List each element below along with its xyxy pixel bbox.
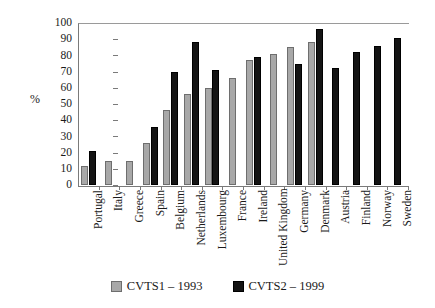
y-axis-tick-label: 10 <box>61 163 73 175</box>
bar-group <box>78 23 99 185</box>
y-axis-tick-label: 90 <box>61 33 73 45</box>
bar-group <box>305 23 326 185</box>
x-axis-tick-label: Portugal <box>93 190 105 266</box>
x-axis-tick-label: Germany <box>299 190 311 266</box>
bar-series1 <box>143 143 150 185</box>
series1-swatch-icon <box>111 281 122 292</box>
bar-group <box>264 23 285 185</box>
bars-layer <box>78 23 408 185</box>
bar-series2 <box>171 72 178 185</box>
x-axis-tick-label: France <box>237 190 249 266</box>
bar-series1 <box>105 161 112 185</box>
x-axis-tick-label-text: Portugal <box>93 190 105 266</box>
bar-series2 <box>394 38 401 185</box>
x-axis-tick-label: Austria <box>340 190 352 266</box>
x-axis-tick-labels: PortugalItalyGreeceSpainBelgiumNetherlan… <box>78 190 408 268</box>
y-axis-tick-label: 100 <box>55 17 72 29</box>
bar-group <box>222 23 243 185</box>
legend-entry-series1: CVTS1 – 1993 <box>111 280 203 293</box>
x-axis-tick-label-text: Austria <box>340 190 352 266</box>
chart-legend: CVTS1 – 1993 CVTS2 – 1999 <box>0 276 435 296</box>
y-axis-tick-label: 20 <box>61 147 73 159</box>
bar-series2 <box>316 29 323 185</box>
y-axis-tick-label: 70 <box>61 66 73 78</box>
bar-group <box>387 23 408 185</box>
bar-series2 <box>151 127 158 185</box>
bar-group <box>140 23 161 185</box>
x-axis-tick-label: Norway <box>382 190 394 266</box>
x-axis-tick-label-text: Spain <box>155 190 167 266</box>
x-axis-tick-label: Netherlands <box>196 190 208 266</box>
x-axis-tick-label: Denmark <box>320 190 332 266</box>
x-axis-tick-label-text: Germany <box>299 190 311 266</box>
x-axis-tick-label: Greece <box>134 190 146 266</box>
x-axis-tick-label-text: United Kingdom <box>278 190 290 266</box>
bar-series1 <box>163 110 170 185</box>
bar-group <box>346 23 367 185</box>
bar-series2 <box>374 46 381 185</box>
x-axis-tick-label: Luxembourg <box>217 190 229 266</box>
bar-group <box>367 23 388 185</box>
x-axis-tick-label-text: Denmark <box>320 190 332 266</box>
x-axis-tick-label-text: France <box>237 190 249 266</box>
y-axis-tick-label: 60 <box>61 82 73 94</box>
bar-series2 <box>353 52 360 185</box>
bar-group <box>161 23 182 185</box>
y-axis-tick-label: 0 <box>66 179 72 191</box>
x-axis-tick-label-text: Ireland <box>258 190 270 266</box>
x-axis-tick-label-text: Norway <box>382 190 394 266</box>
bar-series2 <box>212 70 219 185</box>
bar-group <box>202 23 223 185</box>
bar-series1 <box>229 78 236 185</box>
x-axis-tick-label: United Kingdom <box>278 190 290 266</box>
x-axis-tick-label-text: Greece <box>134 190 146 266</box>
y-axis-tick-label: 80 <box>61 50 73 62</box>
bar-group <box>284 23 305 185</box>
bar-series1 <box>81 166 88 185</box>
legend-label-series2: CVTS2 – 1999 <box>249 280 325 293</box>
x-axis-tick-label: Sweden <box>402 190 414 266</box>
bar-series2 <box>332 68 339 185</box>
bar-series1 <box>246 60 253 185</box>
legend-entry-series2: CVTS2 – 1999 <box>233 280 325 293</box>
x-axis-tick-label-text: Italy <box>113 190 125 266</box>
bar-series2 <box>192 42 199 185</box>
bar-series1 <box>308 42 315 185</box>
bar-group <box>243 23 264 185</box>
x-axis-tick-label-text: Finland <box>361 190 373 266</box>
bar-series1 <box>270 54 277 185</box>
bar-chart-figure: % 0102030405060708090100 PortugalItalyGr… <box>0 0 435 308</box>
x-axis-tick-label-text: Belgium <box>175 190 187 266</box>
bar-group <box>99 23 120 185</box>
x-axis-tick-label: Finland <box>361 190 373 266</box>
series2-swatch-icon <box>233 281 244 292</box>
bar-group <box>119 23 140 185</box>
bar-series2 <box>254 57 261 185</box>
x-axis-tick-label: Belgium <box>175 190 187 266</box>
y-axis-title: % <box>14 93 40 105</box>
x-axis-tick-label: Ireland <box>258 190 270 266</box>
x-axis-tick-label: Spain <box>155 190 167 266</box>
x-axis-tick-label-text: Sweden <box>402 190 414 266</box>
y-axis-tick-label: 50 <box>61 98 73 110</box>
bar-group <box>326 23 347 185</box>
bar-series1 <box>184 94 191 185</box>
x-axis-tick-label-text: Netherlands <box>196 190 208 266</box>
bar-series1 <box>126 161 133 185</box>
bar-group <box>181 23 202 185</box>
bar-series2 <box>89 151 96 185</box>
y-axis-tick-label: 30 <box>61 131 73 143</box>
y-axis-tick-labels: 0102030405060708090100 <box>40 0 78 308</box>
bar-series1 <box>205 88 212 185</box>
bar-series2 <box>295 64 302 186</box>
x-axis-tick-label-text: Luxembourg <box>217 190 229 266</box>
bar-series1 <box>287 47 294 185</box>
x-axis-tick-label: Italy <box>113 190 125 266</box>
y-axis-tick-label: 40 <box>61 114 73 126</box>
legend-label-series1: CVTS1 – 1993 <box>127 280 203 293</box>
